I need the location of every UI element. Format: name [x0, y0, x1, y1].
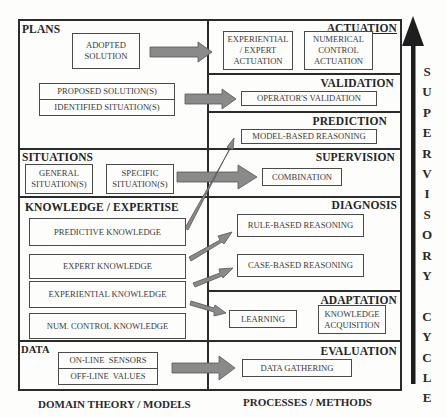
arrow-data-to-gathering-icon — [172, 356, 235, 380]
supervisory-cycle-arrow-icon — [402, 16, 424, 384]
arrow-proposed-to-validation-icon — [185, 89, 236, 109]
arrow-experiential-to-learning-icon — [190, 301, 226, 316]
arrow-experiential-to-case-based-icon — [193, 268, 233, 287]
arrow-adopted-to-actuation-icon — [150, 42, 212, 62]
arrows-layer — [0, 0, 447, 418]
arrow-specific-to-combination-icon — [177, 165, 257, 189]
arrow-predictive-to-model-based-icon — [185, 138, 234, 230]
arrow-expert-to-rule-based-icon — [189, 232, 232, 261]
